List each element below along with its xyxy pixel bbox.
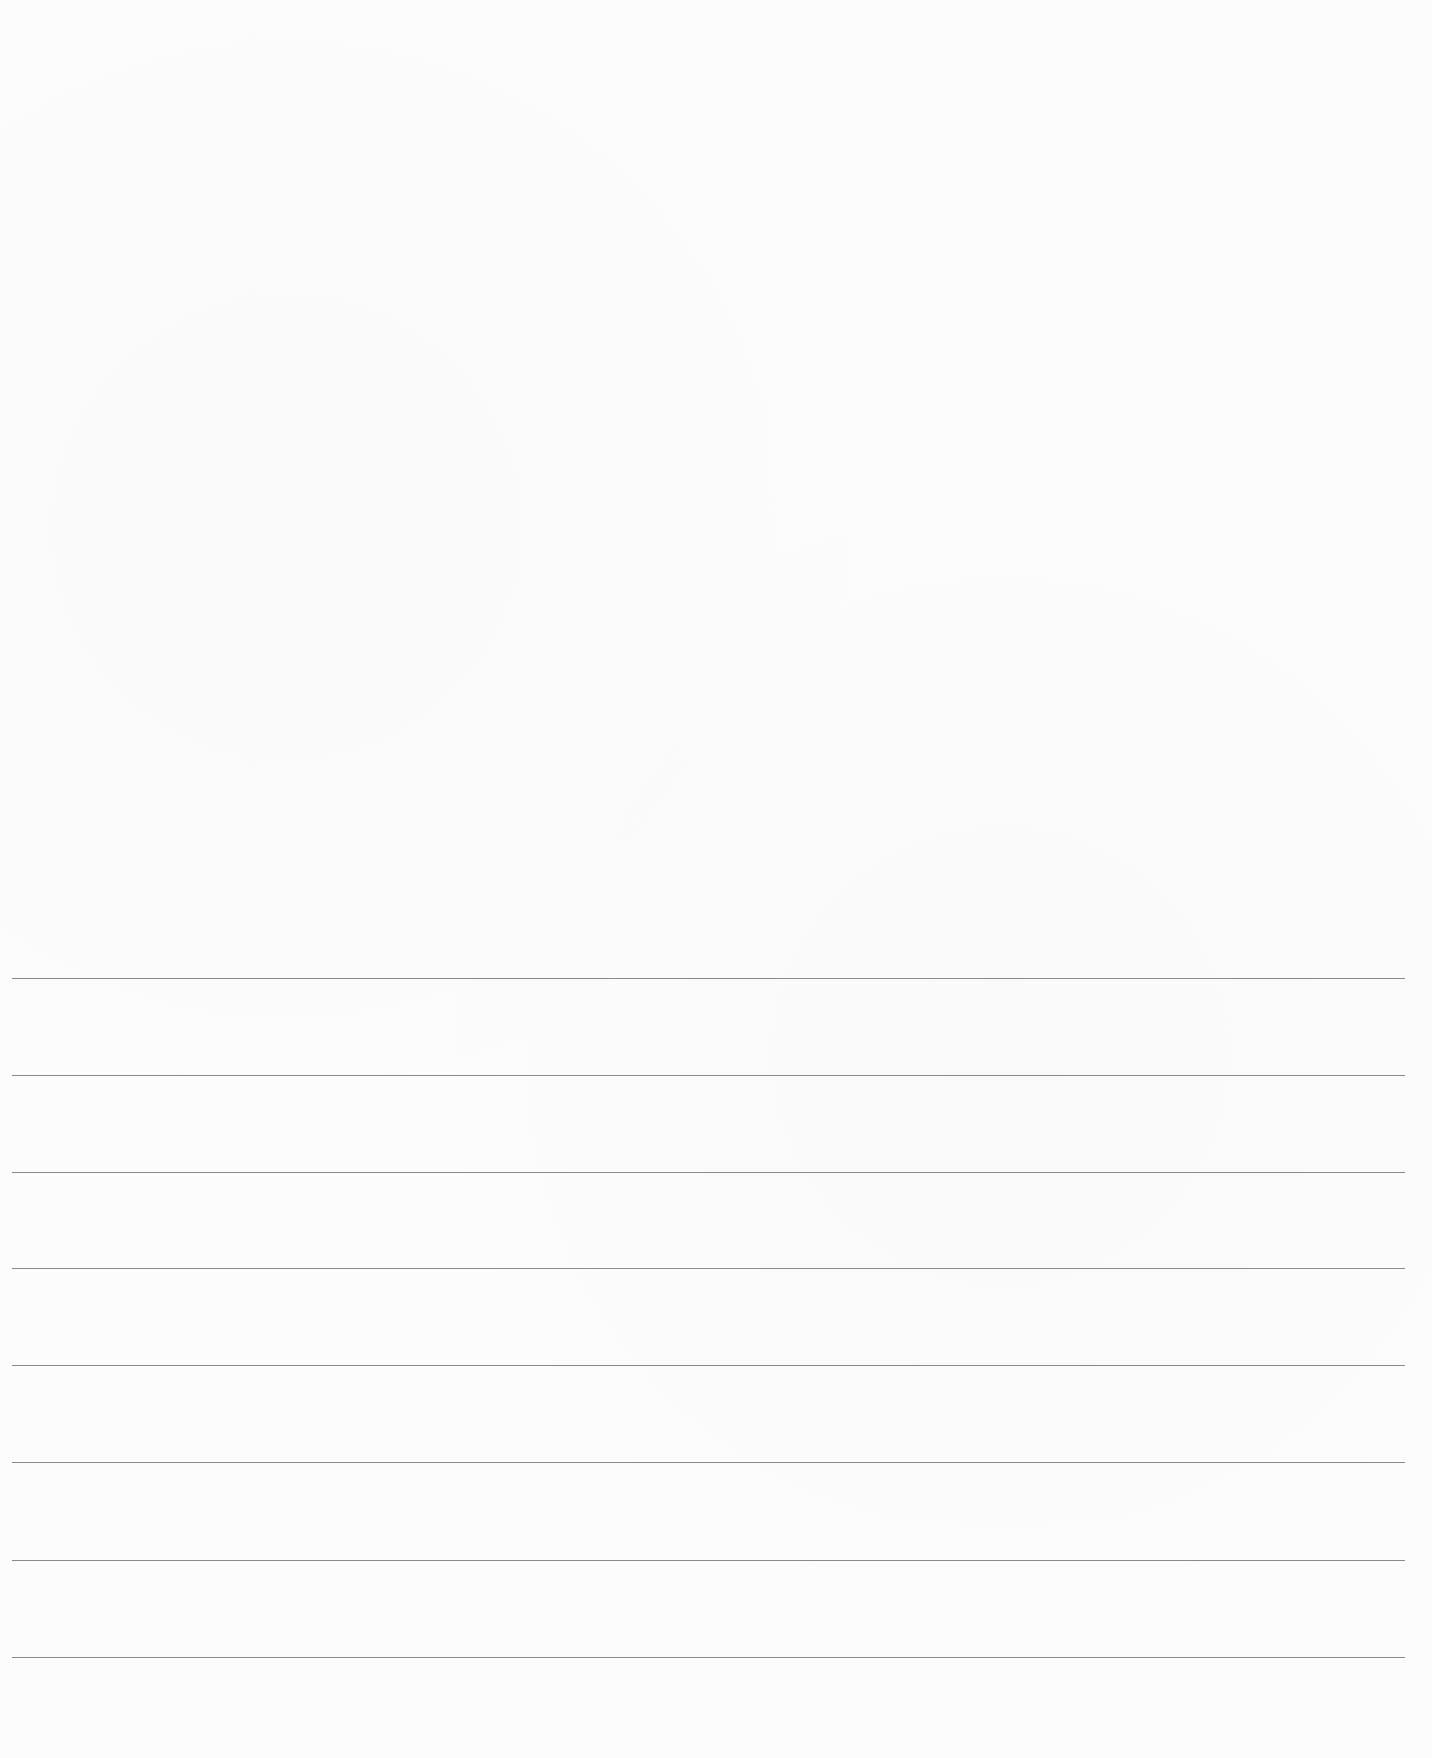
ruled-line bbox=[12, 1365, 1405, 1366]
ruled-line bbox=[12, 1172, 1405, 1173]
ruled-line bbox=[12, 1560, 1405, 1561]
ruled-line bbox=[12, 1268, 1405, 1269]
ruled-line bbox=[12, 1657, 1405, 1658]
ruled-line bbox=[12, 1462, 1405, 1463]
ruled-line bbox=[12, 978, 1405, 979]
ruled-lines bbox=[0, 0, 1432, 1758]
ruled-line bbox=[12, 1075, 1405, 1076]
paper-sheet bbox=[0, 0, 1432, 1758]
